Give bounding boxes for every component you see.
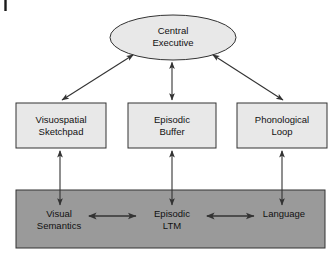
central-executive-ellipse — [110, 15, 236, 60]
long-term-memory-band — [16, 190, 325, 248]
phonological-loop-box — [237, 103, 327, 148]
working-memory-diagram: Central Executive Visuospatial Sketchpad… — [0, 0, 336, 261]
visuospatial-sketchpad-box — [16, 103, 106, 148]
diagram-canvas — [0, 0, 336, 261]
episodic-buffer-box — [128, 103, 216, 148]
connector-ce-to-visuospatial-sketchpad — [62, 55, 133, 100]
connector-ce-to-phonological-loop — [213, 55, 283, 100]
